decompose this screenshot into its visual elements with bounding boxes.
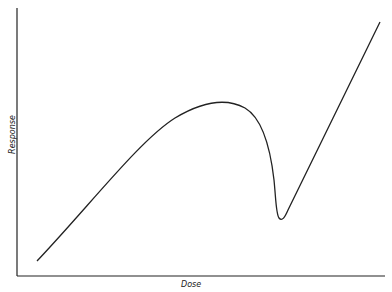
chart-canvas — [0, 0, 392, 292]
x-axis-label: Dose — [181, 280, 201, 289]
y-axis-label: Response — [8, 115, 17, 155]
response-curve — [37, 22, 380, 261]
